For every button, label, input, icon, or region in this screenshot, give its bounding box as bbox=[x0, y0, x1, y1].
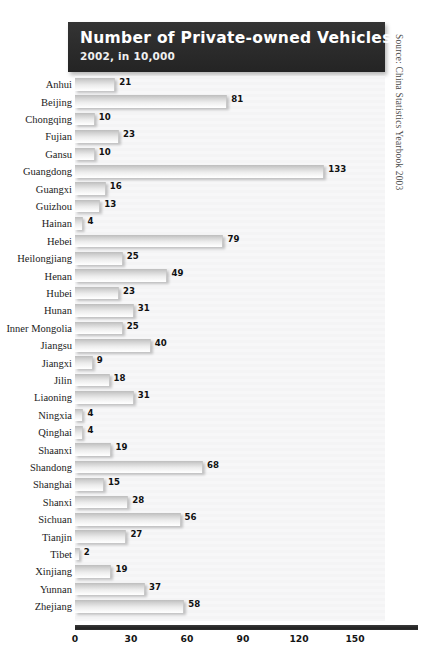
bar bbox=[75, 217, 83, 230]
bar-category-label: Heilongjiang bbox=[0, 253, 72, 264]
bar-wrapper bbox=[75, 443, 111, 456]
bar-wrapper bbox=[75, 374, 110, 387]
x-axis-tick-label: 120 bbox=[289, 633, 308, 644]
bar-wrapper bbox=[75, 304, 134, 317]
bar bbox=[75, 600, 184, 613]
bar-category-label: Sichuan bbox=[0, 514, 72, 525]
bar-category-label: Shanghai bbox=[0, 479, 72, 490]
bar-value-label: 56 bbox=[185, 512, 197, 522]
bar-value-label: 37 bbox=[149, 582, 161, 592]
bar bbox=[75, 148, 95, 161]
bar bbox=[75, 235, 223, 248]
bar-category-label: Anhui bbox=[0, 79, 72, 90]
bar-category-label: Hebei bbox=[0, 236, 72, 247]
table-row: Jiangxi9 bbox=[0, 354, 439, 371]
bar bbox=[75, 391, 134, 404]
bar-wrapper bbox=[75, 426, 83, 439]
chart-subtitle: 2002, in 10,000 bbox=[80, 49, 385, 64]
bar bbox=[75, 374, 110, 387]
table-row: Anhui21 bbox=[0, 76, 439, 93]
bar-value-label: 9 bbox=[97, 355, 103, 365]
bar bbox=[75, 304, 134, 317]
table-row: Tibet2 bbox=[0, 546, 439, 563]
bar-wrapper bbox=[75, 583, 145, 596]
table-row: Yunnan37 bbox=[0, 581, 439, 598]
table-row: Guangdong133 bbox=[0, 163, 439, 180]
table-row: Hunan31 bbox=[0, 302, 439, 319]
table-row: Sichuan56 bbox=[0, 511, 439, 528]
bar bbox=[75, 130, 119, 143]
table-row: Chongqing10 bbox=[0, 111, 439, 128]
x-axis-tick-label: 150 bbox=[345, 633, 364, 644]
bar-category-label: Ningxia bbox=[0, 410, 72, 421]
bar-wrapper bbox=[75, 339, 151, 352]
bar-category-label: Tianjin bbox=[0, 532, 72, 543]
bar bbox=[75, 409, 83, 422]
bar-value-label: 15 bbox=[108, 477, 120, 487]
bar-wrapper bbox=[75, 565, 111, 578]
bar bbox=[75, 565, 111, 578]
table-row: Hubei23 bbox=[0, 285, 439, 302]
bar-wrapper bbox=[75, 409, 83, 422]
x-axis-tick-label: 90 bbox=[237, 633, 250, 644]
bar bbox=[75, 530, 126, 543]
bar-category-label: Guizhou bbox=[0, 201, 72, 212]
bar-wrapper bbox=[75, 513, 181, 526]
bar bbox=[75, 583, 145, 596]
bar-category-label: Fujian bbox=[0, 131, 72, 142]
bar-value-label: 18 bbox=[114, 373, 126, 383]
bar-wrapper bbox=[75, 95, 227, 108]
bar-value-label: 79 bbox=[227, 234, 239, 244]
bar-value-label: 25 bbox=[127, 321, 139, 331]
table-row: Jiangsu40 bbox=[0, 337, 439, 354]
table-row: Henan49 bbox=[0, 267, 439, 284]
table-row: Beijing81 bbox=[0, 93, 439, 110]
bar-wrapper bbox=[75, 269, 167, 282]
bar-category-label: Shaanxi bbox=[0, 445, 72, 456]
x-axis-tick-label: 0 bbox=[72, 633, 78, 644]
bar-wrapper bbox=[75, 391, 134, 404]
bar-category-label: Chongqing bbox=[0, 114, 72, 125]
bar-wrapper bbox=[75, 130, 119, 143]
bar bbox=[75, 461, 203, 474]
bar-wrapper bbox=[75, 478, 104, 491]
bar-value-label: 21 bbox=[119, 77, 131, 87]
table-row: Fujian23 bbox=[0, 128, 439, 145]
table-row: Shanghai15 bbox=[0, 476, 439, 493]
table-row: Tianjin27 bbox=[0, 528, 439, 545]
bar bbox=[75, 478, 104, 491]
bar-value-label: 4 bbox=[87, 408, 93, 418]
chart-title-block: Number of Private-owned Vehicles 2002, i… bbox=[68, 22, 385, 72]
bar-category-label: Inner Mongolia bbox=[0, 323, 72, 334]
x-axis-ticks: 0306090120150 bbox=[0, 633, 439, 649]
bar-category-label: Qinghai bbox=[0, 427, 72, 438]
bar-category-label: Xinjiang bbox=[0, 566, 72, 577]
bar bbox=[75, 426, 83, 439]
bar-category-label: Guangxi bbox=[0, 184, 72, 195]
bar bbox=[75, 322, 123, 335]
bar-value-label: 10 bbox=[99, 147, 111, 157]
bar-wrapper bbox=[75, 113, 95, 126]
table-row: Zhejiang58 bbox=[0, 598, 439, 615]
bar-wrapper bbox=[75, 200, 100, 213]
bar-value-label: 58 bbox=[188, 599, 200, 609]
bar bbox=[75, 200, 100, 213]
bar-category-label: Shandong bbox=[0, 462, 72, 473]
bar-wrapper bbox=[75, 182, 106, 195]
bar bbox=[75, 113, 95, 126]
table-row: Gansu10 bbox=[0, 146, 439, 163]
bar-category-label: Henan bbox=[0, 271, 72, 282]
table-row: Shaanxi19 bbox=[0, 441, 439, 458]
bar-wrapper bbox=[75, 496, 128, 509]
bar-category-label: Liaoning bbox=[0, 392, 72, 403]
bar-value-label: 31 bbox=[138, 303, 150, 313]
table-row: Hebei79 bbox=[0, 233, 439, 250]
bar bbox=[75, 443, 111, 456]
bar-category-label: Tibet bbox=[0, 549, 72, 560]
table-row: Guangxi16 bbox=[0, 180, 439, 197]
bar-value-label: 28 bbox=[132, 495, 144, 505]
bar-wrapper bbox=[75, 461, 203, 474]
bar bbox=[75, 95, 227, 108]
bar-value-label: 27 bbox=[130, 529, 142, 539]
bar bbox=[75, 287, 119, 300]
